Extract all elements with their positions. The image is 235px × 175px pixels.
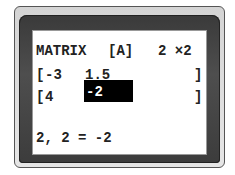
row-2-close-bracket: ]	[194, 89, 202, 105]
matrix-cell-2-2-selected[interactable]: -2	[84, 80, 133, 102]
calculator-screen: MATRIX [A] 2 ×2 [ -3 1.5 ] [ 4 -2 ] 2, 2…	[32, 30, 207, 155]
row-2-open-bracket: [	[36, 89, 44, 105]
matrix-name: [A]	[108, 43, 133, 59]
row-1-open-bracket: [	[36, 67, 44, 83]
row-1-close-bracket: ]	[194, 67, 202, 83]
matrix-cell-1-1[interactable]: -3	[45, 67, 62, 83]
matrix-dimensions: 2 ×2	[158, 43, 192, 59]
matrix-label: MATRIX	[36, 43, 86, 59]
matrix-cell-2-1[interactable]: 4	[45, 89, 53, 105]
cell-status-line: 2, 2 = -2	[36, 130, 112, 146]
selected-cell-value: -2	[86, 84, 103, 100]
